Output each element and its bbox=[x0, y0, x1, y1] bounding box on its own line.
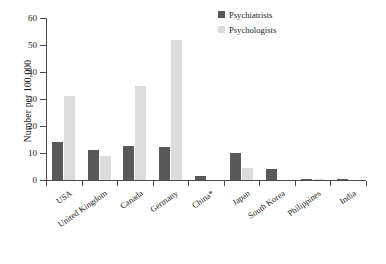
x-axis-tick bbox=[259, 181, 260, 186]
x-axis-tick bbox=[82, 181, 83, 186]
bar-chart: Number per 100,000 0102030405060 USAUnit… bbox=[0, 0, 386, 264]
bar-psychiatrists bbox=[195, 176, 206, 180]
x-axis-tick bbox=[153, 181, 154, 186]
bar-psychologists bbox=[64, 96, 75, 180]
legend-swatch-icon bbox=[218, 26, 225, 33]
y-axis-tick: 40 bbox=[40, 72, 46, 73]
x-axis-tick bbox=[117, 181, 118, 186]
y-axis-tick-label: 0 bbox=[33, 174, 38, 186]
bar-psychologists bbox=[242, 168, 253, 180]
legend-label: Psychiatrists bbox=[229, 10, 272, 20]
legend-swatch-icon bbox=[218, 11, 225, 18]
x-axis-tick bbox=[188, 181, 189, 186]
plot-area: 0102030405060 bbox=[46, 18, 366, 181]
legend-label: Psychologists bbox=[229, 25, 276, 35]
chart-legend: Psychiatrists Psychologists bbox=[218, 8, 276, 38]
bar-psychologists bbox=[100, 156, 111, 180]
x-axis-tick bbox=[366, 181, 367, 186]
bar-psychiatrists bbox=[52, 142, 63, 180]
y-axis-tick: 60 bbox=[40, 18, 46, 19]
x-axis-line bbox=[46, 180, 366, 181]
y-axis-tick: 30 bbox=[40, 99, 46, 100]
legend-item-psychiatrists: Psychiatrists bbox=[218, 8, 276, 21]
y-axis-line bbox=[46, 18, 47, 181]
bar-psychiatrists bbox=[337, 179, 348, 180]
x-axis-tick bbox=[330, 181, 331, 186]
x-axis-tick bbox=[295, 181, 296, 186]
y-axis-tick-label: 60 bbox=[28, 12, 37, 24]
y-axis-tick: 20 bbox=[40, 126, 46, 127]
y-axis-tick: 50 bbox=[40, 45, 46, 46]
bar-psychiatrists bbox=[301, 179, 312, 180]
y-axis-tick: 10 bbox=[40, 153, 46, 154]
bar-psychiatrists bbox=[230, 153, 241, 180]
y-axis-tick-label: 40 bbox=[28, 66, 37, 78]
bar-psychologists bbox=[171, 40, 182, 180]
bar-psychiatrists bbox=[123, 146, 134, 180]
bar-psychiatrists bbox=[88, 150, 99, 180]
bar-psychologists bbox=[135, 86, 146, 181]
y-axis-tick-label: 10 bbox=[28, 147, 37, 159]
y-axis-tick-label: 30 bbox=[28, 93, 37, 105]
bar-psychologists bbox=[313, 179, 324, 180]
legend-item-psychologists: Psychologists bbox=[218, 23, 276, 36]
y-axis-tick-label: 20 bbox=[28, 120, 37, 132]
x-axis-tick bbox=[224, 181, 225, 186]
x-axis-tick bbox=[46, 181, 47, 186]
bar-psychiatrists bbox=[266, 169, 277, 180]
y-axis-tick-label: 50 bbox=[28, 39, 37, 51]
bar-psychiatrists bbox=[159, 147, 170, 180]
